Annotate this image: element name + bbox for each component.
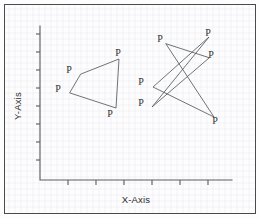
vertex-label-p: P (138, 97, 144, 108)
vertex-label-p: P (107, 108, 113, 119)
vertex-label-p: P (115, 47, 121, 58)
vertex-label-p: P (157, 33, 163, 44)
vertex-label-p: P (208, 49, 214, 60)
vertex-label-p: P (55, 83, 61, 94)
x-axis-title: X-Axis (122, 194, 151, 205)
vertex-label-p: P (66, 64, 72, 75)
vertex-label-p: P (212, 115, 218, 126)
vertex-label-p: P (205, 27, 211, 38)
plot-canvas: PPPPPPPPPP X-Axis Y-Axis (0, 0, 260, 218)
figure-root: PPPPPPPPPP X-Axis Y-Axis (0, 0, 260, 218)
y-axis-title: Y-Axis (12, 92, 23, 120)
vertex-label-p: P (138, 76, 144, 87)
